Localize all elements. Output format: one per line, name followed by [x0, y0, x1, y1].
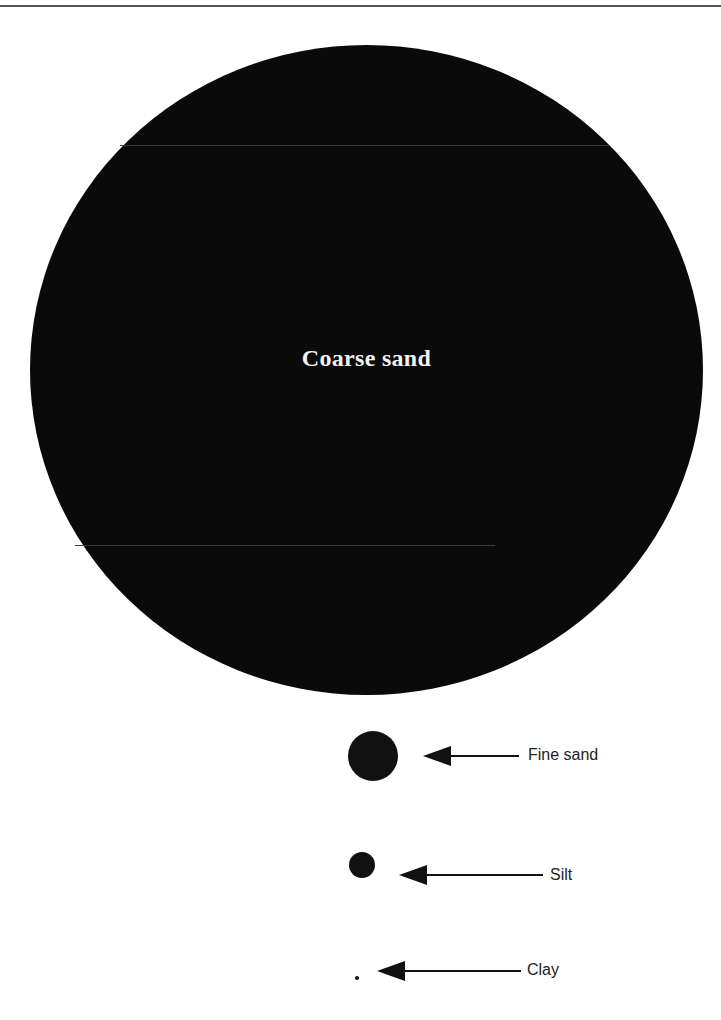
clay-particle: [355, 976, 359, 980]
scan-artifact-line: [120, 145, 610, 146]
arrow-left-icon: [423, 744, 523, 768]
silt-particle: [349, 852, 375, 878]
clay-label: Clay: [527, 961, 559, 979]
silt-label: Silt: [550, 866, 572, 884]
fine-sand-particle: [348, 731, 398, 781]
coarse-sand-label: Coarse sand: [30, 345, 703, 372]
scan-artifact-line: [75, 545, 495, 546]
coarse-sand-particle: Coarse sand: [30, 45, 703, 695]
arrow-left-icon: [377, 959, 523, 983]
top-rule: [0, 5, 721, 7]
fine-sand-label: Fine sand: [528, 746, 598, 764]
arrow-left-icon: [399, 863, 545, 887]
